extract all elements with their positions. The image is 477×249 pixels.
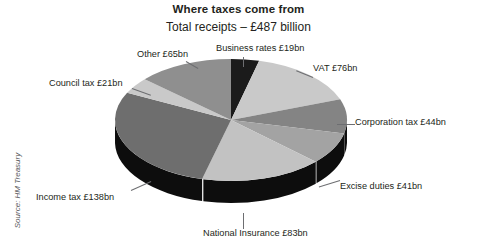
slice-label-income-tax: Income tax £138bn bbox=[36, 192, 114, 202]
leader-line-corporation-tax bbox=[337, 124, 355, 125]
leader-line-national-insurance bbox=[243, 213, 244, 229]
slice-label-council-tax: Council tax £21bn bbox=[49, 78, 123, 88]
slice-label-excise-duties: Excise duties £41bn bbox=[340, 181, 422, 191]
slice-label-other: Other £65bn bbox=[137, 49, 188, 59]
slice-label-corporation-tax: Corporation tax £44bn bbox=[355, 117, 446, 127]
leader-line-business-rates bbox=[243, 57, 244, 67]
slice-label-business-rates: Business rates £19bn bbox=[216, 43, 304, 53]
slice-label-national-insurance: National Insurance £83bn bbox=[203, 228, 308, 238]
slice-label-vat: VAT £76bn bbox=[313, 63, 357, 73]
chart-page: Where taxes come from Total receipts – £… bbox=[0, 0, 477, 249]
